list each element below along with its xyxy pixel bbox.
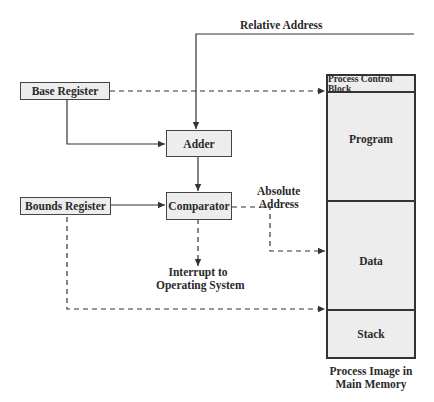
memory-segment-data: Data <box>328 202 414 311</box>
process-image-memory: Process Control Block Program Data Stack <box>326 74 416 359</box>
interrupt-line2: Operating System <box>156 279 240 292</box>
interrupt-label: Interrupt to Operating System <box>156 266 240 292</box>
memory-segment-stack: Stack <box>328 311 414 357</box>
bounds-to-memory-dashed-arrow <box>67 217 325 309</box>
absolute-address-line2: Address <box>257 198 300 211</box>
base-to-adder-arrow <box>67 99 165 144</box>
bounds-register-box: Bounds Register <box>20 197 111 215</box>
absolute-address-label: Absolute Address <box>257 185 300 211</box>
memory-segment-pcb: Process Control Block <box>328 76 414 93</box>
absolute-address-line1: Absolute <box>257 185 300 198</box>
base-register-box: Base Register <box>20 82 110 100</box>
absolute-address-dashed-arrow <box>232 207 325 251</box>
comparator-box: Comparator <box>166 192 232 220</box>
memory-caption-line1: Process Image in <box>326 365 416 378</box>
memory-caption: Process Image in Main Memory <box>326 365 416 391</box>
memory-segment-program: Program <box>328 93 414 202</box>
adder-box: Adder <box>166 130 232 157</box>
memory-caption-line2: Main Memory <box>326 378 416 391</box>
interrupt-line1: Interrupt to <box>156 266 240 279</box>
relative-address-label: Relative Address <box>240 19 323 31</box>
